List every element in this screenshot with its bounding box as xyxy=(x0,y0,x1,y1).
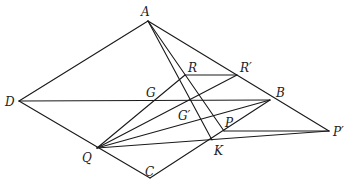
segment-A-D xyxy=(19,21,148,101)
point-label-R: R xyxy=(187,61,197,75)
segment-D-B xyxy=(19,100,270,101)
segment-Q-B xyxy=(97,100,270,148)
point-label-G: G xyxy=(146,86,156,100)
segment-A-Pp xyxy=(148,21,329,131)
segment-D-C xyxy=(19,101,150,178)
point-label-D: D xyxy=(4,95,15,109)
segment-Q-Rp xyxy=(97,75,237,148)
point-label-A: A xyxy=(140,5,150,19)
point-labels: ADBCQRR′GG′PP′K xyxy=(4,5,344,179)
geometry-diagram: ADBCQRR′GG′PP′K xyxy=(0,0,349,180)
point-label-Rp: R′ xyxy=(239,61,252,75)
point-label-K: K xyxy=(213,144,224,158)
point-label-Gp: G′ xyxy=(178,109,191,123)
point-label-B: B xyxy=(275,86,285,100)
segment-Q-Pp xyxy=(97,131,329,148)
point-label-C: C xyxy=(145,165,154,179)
segment-Q-R xyxy=(97,75,185,148)
point-label-P: P xyxy=(224,116,234,130)
point-label-Pp: P′ xyxy=(332,125,344,139)
point-label-Q: Q xyxy=(82,151,92,165)
